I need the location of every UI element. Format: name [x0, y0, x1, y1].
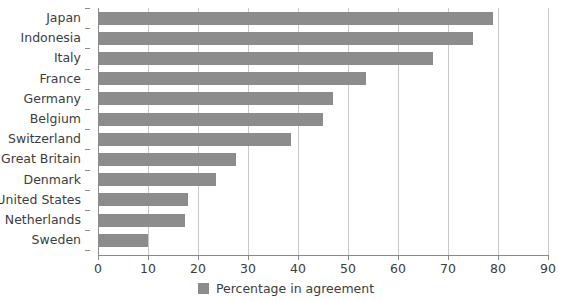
x-tick-label-30: 30	[240, 261, 256, 276]
y-label-germany: Germany	[24, 89, 81, 109]
plot-area	[98, 8, 548, 255]
legend-swatch-icon	[198, 283, 209, 294]
x-tick-90	[548, 255, 549, 260]
bar-indonesia	[98, 32, 473, 45]
y-label-sweden: Sweden	[32, 230, 81, 250]
bar-row	[98, 8, 548, 28]
y-label-united-states: United States	[0, 190, 81, 210]
y-label-great-britain: Great Britain	[1, 149, 81, 169]
y-tick	[85, 230, 90, 231]
y-tick	[85, 69, 90, 70]
y-label-netherlands: Netherlands	[5, 210, 81, 230]
x-tick-label-20: 20	[190, 261, 206, 276]
bar-sweden	[98, 234, 148, 247]
x-tick-30	[248, 255, 249, 260]
bar-great-britain	[98, 153, 236, 166]
x-tick-20	[198, 255, 199, 260]
y-tick	[85, 8, 90, 9]
y-tick	[85, 149, 90, 150]
x-tick-label-10: 10	[140, 261, 156, 276]
legend-label: Percentage in agreement	[216, 281, 374, 296]
x-tick-label-80: 80	[490, 261, 506, 276]
y-label-japan: Japan	[46, 8, 81, 28]
y-tick	[85, 190, 90, 191]
gridline-90	[548, 8, 549, 255]
x-tick-label-90: 90	[540, 261, 556, 276]
bar-row	[98, 210, 548, 230]
y-tick	[85, 129, 90, 130]
y-label-denmark: Denmark	[24, 170, 81, 190]
x-axis-line	[98, 255, 549, 256]
chart-legend: Percentage in agreement	[0, 281, 572, 296]
bar-japan	[98, 12, 493, 25]
bar-chart: JapanIndonesiaItalyFranceGermanyBelgiumS…	[0, 0, 572, 301]
bar-italy	[98, 52, 433, 65]
x-tick-label-0: 0	[94, 261, 102, 276]
x-tick-0	[98, 255, 99, 260]
x-tick-label-40: 40	[290, 261, 306, 276]
y-label-belgium: Belgium	[30, 109, 81, 129]
bar-france	[98, 72, 366, 85]
x-tick-50	[348, 255, 349, 260]
y-tick	[85, 170, 90, 171]
y-tick	[85, 109, 90, 110]
bar-row	[98, 109, 548, 129]
y-tick	[85, 89, 90, 90]
bars-layer	[98, 8, 548, 255]
y-label-indonesia: Indonesia	[21, 28, 81, 48]
bar-row	[98, 48, 548, 68]
x-tick-40	[298, 255, 299, 260]
bar-row	[98, 28, 548, 48]
x-tick-10	[148, 255, 149, 260]
y-tick	[85, 28, 90, 29]
bar-denmark	[98, 173, 216, 186]
y-tick	[85, 48, 90, 49]
bar-row	[98, 230, 548, 250]
bar-row	[98, 89, 548, 109]
bar-row	[98, 129, 548, 149]
y-label-france: France	[39, 69, 81, 89]
bar-row	[98, 149, 548, 169]
bar-row	[98, 190, 548, 210]
x-tick-label-60: 60	[390, 261, 406, 276]
x-tick-70	[448, 255, 449, 260]
bar-switzerland	[98, 133, 291, 146]
x-tick-label-50: 50	[340, 261, 356, 276]
bar-germany	[98, 92, 333, 105]
bar-row	[98, 69, 548, 89]
bar-netherlands	[98, 214, 185, 227]
y-axis-category-labels: JapanIndonesiaItalyFranceGermanyBelgiumS…	[0, 8, 90, 255]
bar-row	[98, 170, 548, 190]
x-tick-label-70: 70	[440, 261, 456, 276]
y-tick	[85, 250, 90, 251]
bar-united-states	[98, 193, 188, 206]
x-tick-80	[498, 255, 499, 260]
bar-belgium	[98, 113, 323, 126]
y-tick	[85, 210, 90, 211]
x-tick-60	[398, 255, 399, 260]
y-label-switzerland: Switzerland	[8, 129, 81, 149]
y-label-italy: Italy	[54, 48, 81, 68]
